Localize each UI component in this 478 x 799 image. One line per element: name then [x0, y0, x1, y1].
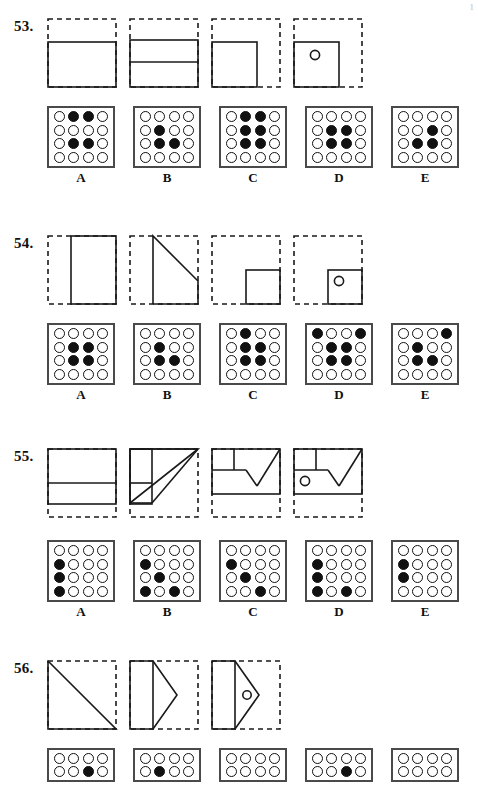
dot-grid[interactable] [133, 106, 201, 168]
answer-option[interactable] [305, 748, 373, 784]
dot-open [83, 586, 94, 597]
dot-grid[interactable] [391, 106, 459, 168]
dot-open [312, 355, 323, 366]
dot-open [54, 545, 65, 556]
dot-grid[interactable] [305, 323, 373, 385]
dot-open [441, 125, 452, 136]
dot-grid[interactable] [219, 106, 287, 168]
dot-grid[interactable] [219, 540, 287, 602]
dot-grid[interactable] [305, 540, 373, 602]
answer-option-label: D [305, 604, 373, 620]
problem-number: 55. [14, 448, 33, 465]
dot-filled [312, 328, 323, 339]
dot-open [269, 559, 280, 570]
dot-filled [240, 138, 251, 149]
dot-open [240, 559, 251, 570]
dot-open [54, 355, 65, 366]
answer-option[interactable]: E [391, 540, 459, 620]
answer-option[interactable]: C [219, 106, 287, 186]
fold-step-3 [211, 660, 281, 730]
answer-option[interactable]: C [219, 540, 287, 620]
dot-open [154, 586, 165, 597]
dot-filled [154, 342, 165, 353]
dot-open [140, 766, 151, 777]
dot-open [240, 766, 251, 777]
dot-grid[interactable] [391, 323, 459, 385]
dot-open [54, 342, 65, 353]
dot-row [52, 138, 110, 149]
dot-grid[interactable] [305, 106, 373, 168]
dot-row [310, 125, 368, 136]
dot-row [310, 328, 368, 339]
dot-filled [140, 586, 151, 597]
fold-step-2 [129, 660, 199, 730]
dot-open [169, 342, 180, 353]
dot-grid[interactable] [47, 323, 115, 385]
dot-open [427, 328, 438, 339]
answer-option[interactable]: A [47, 540, 115, 620]
answer-option[interactable]: A [47, 323, 115, 403]
answer-option[interactable] [133, 748, 201, 784]
dot-open [140, 369, 151, 380]
dot-row [52, 559, 110, 570]
answer-option[interactable] [391, 748, 459, 784]
dot-open [140, 342, 151, 353]
dot-grid[interactable] [133, 748, 201, 782]
dot-grid[interactable] [219, 748, 287, 782]
dot-grid[interactable] [133, 540, 201, 602]
dot-open [341, 328, 352, 339]
dot-open [398, 753, 409, 764]
answer-option[interactable]: D [305, 540, 373, 620]
dot-open [427, 753, 438, 764]
dot-open [312, 152, 323, 163]
dot-open [441, 355, 452, 366]
dot-grid[interactable] [47, 106, 115, 168]
answer-option[interactable]: C [219, 323, 287, 403]
dot-grid[interactable] [219, 323, 287, 385]
dot-grid[interactable] [47, 540, 115, 602]
answer-option[interactable]: E [391, 106, 459, 186]
answer-option[interactable]: B [133, 106, 201, 186]
answer-option[interactable]: B [133, 540, 201, 620]
dot-row [138, 545, 196, 556]
dot-open [341, 369, 352, 380]
dot-open [226, 369, 237, 380]
answer-option-label: C [219, 170, 287, 186]
dot-open [412, 753, 423, 764]
dot-open [355, 138, 366, 149]
dot-row [52, 152, 110, 163]
dot-filled [240, 342, 251, 353]
dot-row [138, 572, 196, 583]
dot-open [398, 355, 409, 366]
dot-open [83, 152, 94, 163]
dot-grid[interactable] [391, 748, 459, 782]
dot-grid-rows [49, 542, 113, 600]
dot-open [412, 766, 423, 777]
dot-grid-rows [135, 108, 199, 166]
dot-grid[interactable] [305, 748, 373, 782]
dot-grid[interactable] [391, 540, 459, 602]
dot-grid[interactable] [47, 748, 115, 782]
dot-filled [326, 125, 337, 136]
dot-filled [140, 559, 151, 570]
answer-option[interactable]: E [391, 323, 459, 403]
dot-filled [240, 572, 251, 583]
dot-open [97, 328, 108, 339]
answer-option[interactable]: D [305, 106, 373, 186]
dot-grid[interactable] [133, 323, 201, 385]
answer-option[interactable]: D [305, 323, 373, 403]
dot-open [54, 328, 65, 339]
fold-step-4-punch [293, 448, 363, 518]
answer-option[interactable] [47, 748, 115, 784]
dot-row [310, 766, 368, 777]
answer-option-label: A [47, 604, 115, 620]
dot-filled [341, 342, 352, 353]
problem-number: 53. [14, 18, 33, 35]
dot-open [140, 355, 151, 366]
answer-option[interactable]: B [133, 323, 201, 403]
answer-option[interactable] [219, 748, 287, 784]
dot-open [140, 111, 151, 122]
answer-option[interactable]: A [47, 106, 115, 186]
dot-open [255, 152, 266, 163]
dot-filled [54, 572, 65, 583]
